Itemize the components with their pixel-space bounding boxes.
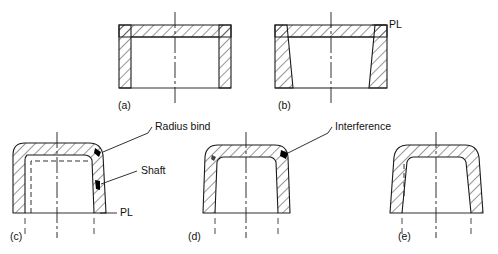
subfigure-label-c: (c)	[10, 230, 22, 242]
subfigure-label-a: (a)	[118, 99, 131, 111]
pl-label-c: PL	[120, 206, 133, 218]
subfigure-label-e: (e)	[398, 230, 411, 242]
interference-label: Interference	[335, 120, 391, 132]
subfigure-label-d: (d)	[188, 230, 201, 242]
radius-bind-label: Radius bind	[155, 120, 211, 132]
drawing-canvas: (a) PL (b) PL	[0, 0, 498, 254]
pl-label-b: PL	[389, 18, 402, 30]
top-wall-b	[275, 25, 387, 37]
subfigure-label-b: (b)	[278, 99, 291, 111]
canvas-background	[0, 0, 498, 254]
top-wall-a	[119, 25, 231, 37]
shaft-label: Shaft	[141, 164, 166, 176]
technical-drawing-svg: (a) PL (b) PL	[0, 0, 498, 254]
